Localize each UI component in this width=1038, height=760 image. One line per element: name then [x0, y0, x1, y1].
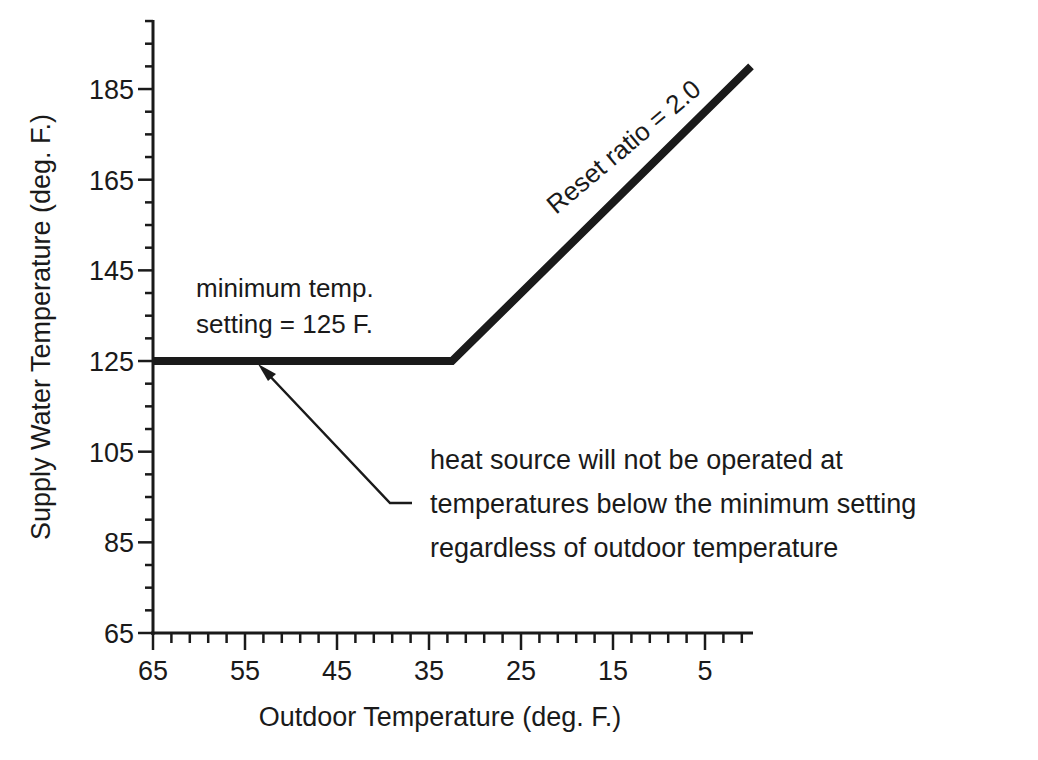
- y-axis-ticks: [138, 21, 153, 633]
- y-tick-label: 165: [89, 166, 134, 196]
- x-tick-label: 35: [414, 656, 444, 686]
- x-tick-label: 65: [138, 656, 168, 686]
- x-tick-label: 25: [506, 656, 536, 686]
- note-line2: temperatures below the minimum setting: [430, 489, 916, 519]
- y-tick-label: 125: [89, 347, 134, 377]
- y-tick-label: 105: [89, 438, 134, 468]
- note-line1: heat source will not be operated at: [430, 445, 843, 475]
- x-axis-ticks: [153, 633, 742, 650]
- x-tick-label: 55: [230, 656, 260, 686]
- y-tick-label: 145: [89, 256, 134, 286]
- y-axis-tick-labels: 6585105125145165185: [89, 75, 134, 649]
- x-tick-label: 15: [598, 656, 628, 686]
- x-tick-label: 45: [322, 656, 352, 686]
- reset-curve-chart: 6585105125145165185 6555453525155 minimu…: [0, 0, 1038, 760]
- min-setting-label-line1: minimum temp.: [196, 273, 374, 303]
- y-tick-label: 65: [104, 619, 134, 649]
- y-tick-label: 185: [89, 75, 134, 105]
- reset-ratio-label: Reset ratio = 2.0: [541, 74, 707, 220]
- y-tick-label: 85: [104, 528, 134, 558]
- x-tick-label: 5: [697, 656, 712, 686]
- note-line3: regardless of outdoor temperature: [430, 533, 838, 563]
- annotation-arrow-line: [266, 372, 412, 503]
- min-setting-label-line2: setting = 125 F.: [196, 309, 373, 339]
- x-axis-title: Outdoor Temperature (deg. F.): [259, 702, 622, 732]
- y-axis-title: Supply Water Temperature (deg. F.): [26, 114, 56, 540]
- x-axis-tick-labels: 6555453525155: [138, 656, 713, 686]
